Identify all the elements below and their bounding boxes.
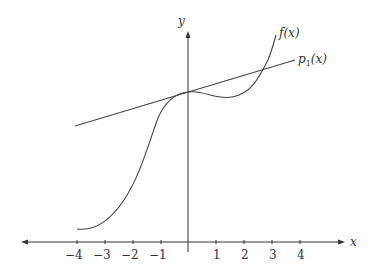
f-label: f(x) (278, 26, 300, 40)
svg-text:3: 3 (269, 248, 277, 262)
svg-text:2: 2 (241, 248, 249, 262)
y-axis-arrow-icon (186, 31, 191, 38)
svg-text:1: 1 (213, 248, 221, 262)
svg-text:−3: −3 (93, 248, 111, 262)
svg-text:−1: −1 (149, 248, 167, 262)
svg-text:−4: −4 (65, 248, 83, 262)
y-axis-label: y (177, 14, 185, 28)
x-axis-right-arrow-icon (338, 240, 345, 245)
p1-label: p1(x) (298, 52, 327, 68)
plot: x y −4 −3 −2 −1 1 2 3 4 f(x) p1(x) (0, 0, 379, 271)
series-p1-line (75, 60, 295, 126)
x-axis-left-arrow-icon (21, 240, 28, 245)
series-f-curve (77, 35, 276, 229)
svg-text:−2: −2 (121, 248, 139, 262)
x-axis-label: x (350, 235, 357, 249)
svg-text:4: 4 (297, 248, 305, 262)
x-tick-labels: −4 −3 −2 −1 1 2 3 4 (65, 248, 305, 262)
